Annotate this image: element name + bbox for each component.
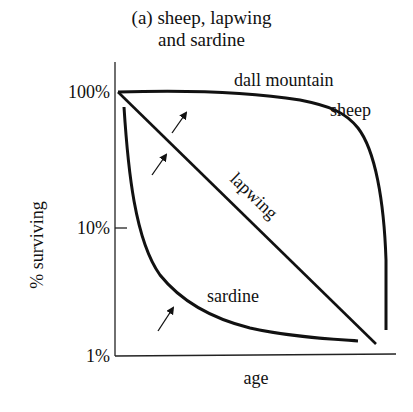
sardine-arrow <box>158 308 173 331</box>
sardine-label: sardine <box>207 286 259 306</box>
y-axis-label: % surviving <box>27 201 47 289</box>
survivorship-chart: 100% 10% 1% % surviving age dall mountai… <box>0 0 413 412</box>
sheep-label-line1: dall mountain <box>234 70 333 90</box>
y-tick-label-10: 10% <box>77 218 110 238</box>
y-tick-label-1: 1% <box>86 346 110 366</box>
lapwing-line <box>118 92 376 344</box>
lapwing-label: lapwing <box>226 168 282 223</box>
sheep-label-line2: sheep <box>330 100 371 120</box>
x-axis <box>115 354 396 356</box>
sheep-arrow <box>172 113 186 133</box>
lapwing-arrow <box>152 155 166 175</box>
x-axis-label: age <box>244 368 269 388</box>
y-tick-label-100: 100% <box>68 82 110 102</box>
